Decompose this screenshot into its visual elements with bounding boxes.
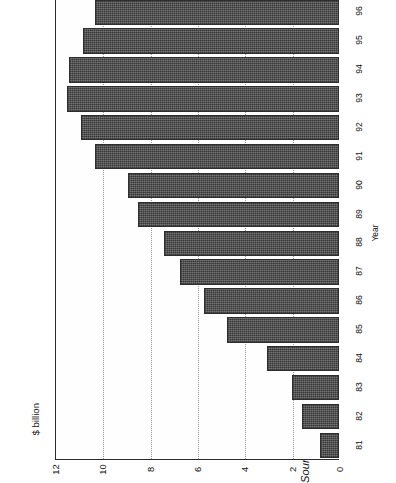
value-axis-label: $ billion	[30, 372, 41, 436]
bar-row	[55, 346, 339, 371]
year-tick-86: 86	[354, 290, 364, 310]
bar-87	[180, 259, 339, 284]
bar-93	[67, 86, 339, 111]
bar-row	[55, 288, 339, 313]
bar-92	[81, 115, 339, 140]
plot-area	[55, 0, 339, 460]
year-tick-93: 93	[354, 88, 364, 108]
value-tick-6: 6	[192, 459, 203, 481]
bar-95	[83, 28, 339, 53]
bar-85	[227, 317, 339, 342]
bar-row	[55, 115, 339, 140]
bar-row	[55, 404, 339, 429]
bar-86	[204, 288, 339, 313]
bar-96	[95, 0, 339, 25]
bar-row	[55, 57, 339, 82]
bar-row	[55, 231, 339, 256]
bar-82	[302, 404, 339, 429]
year-tick-96: 96	[354, 1, 364, 21]
bar-row	[55, 173, 339, 198]
year-tick-81: 81	[354, 435, 364, 455]
bar-81	[320, 433, 339, 458]
value-tick-8: 8	[144, 459, 155, 481]
year-tick-92: 92	[354, 117, 364, 137]
year-tick-95: 95	[354, 30, 364, 50]
value-tick-10: 10	[97, 459, 108, 481]
bar-row	[55, 0, 339, 25]
value-tick-4: 4	[239, 459, 250, 481]
year-tick-82: 82	[354, 406, 364, 426]
value-tick-12: 12	[50, 459, 61, 481]
bar-row	[55, 433, 339, 458]
year-tick-89: 89	[354, 204, 364, 224]
bar-90	[128, 173, 339, 198]
bar-row	[55, 86, 339, 111]
bar-row	[55, 202, 339, 227]
bar-row	[55, 28, 339, 53]
bar-row	[55, 144, 339, 169]
bar-row	[55, 375, 339, 400]
bar-89	[138, 202, 339, 227]
year-tick-87: 87	[354, 261, 364, 281]
year-tick-90: 90	[354, 175, 364, 195]
year-tick-94: 94	[354, 59, 364, 79]
bar-88	[164, 231, 339, 256]
bar-84	[267, 346, 339, 371]
category-axis-label: Year	[370, 213, 380, 253]
value-tick-2: 2	[286, 459, 297, 481]
bar-row	[55, 317, 339, 342]
year-tick-85: 85	[354, 319, 364, 339]
year-tick-91: 91	[354, 146, 364, 166]
year-tick-83: 83	[354, 377, 364, 397]
value-tick-0: 0	[334, 459, 345, 481]
year-tick-84: 84	[354, 348, 364, 368]
bar-row	[55, 259, 339, 284]
year-tick-88: 88	[354, 232, 364, 252]
bar-94	[69, 57, 339, 82]
bar-91	[95, 144, 339, 169]
bar-83	[292, 375, 339, 400]
